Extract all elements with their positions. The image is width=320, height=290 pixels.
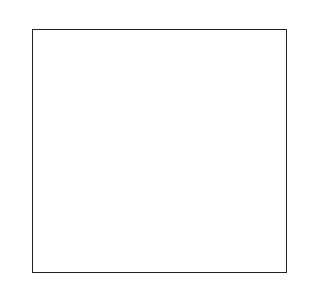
block-graph-grid [32,29,287,273]
